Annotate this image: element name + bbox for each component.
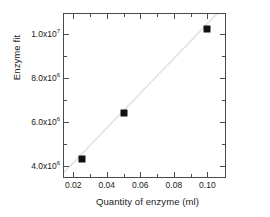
y-tick-minor [64, 100, 67, 101]
y-tick-right-major [220, 166, 225, 167]
y-tick-major [64, 166, 69, 167]
x-tick-label: 0.04 [98, 180, 115, 190]
x-tick-label: 0.10 [199, 180, 216, 190]
y-tick-label: 6.0x106 [31, 117, 60, 127]
x-tick-top-major [207, 14, 208, 19]
x-tick-minor [157, 174, 158, 177]
y-tick-right-minor [222, 144, 225, 145]
x-axis-label: Quantity of enzyme (ml) [60, 196, 235, 207]
data-point-marker [78, 156, 85, 163]
y-tick-major [64, 78, 69, 79]
x-tick-top-minor [124, 14, 125, 17]
data-point-marker [204, 26, 211, 33]
y-tick-minor [64, 144, 67, 145]
y-tick-right-major [220, 122, 225, 123]
x-tick-top-major [107, 14, 108, 19]
plot-inner [64, 14, 225, 177]
x-tick-minor [191, 174, 192, 177]
x-tick-major [174, 172, 175, 177]
x-tick-label: 0.02 [65, 180, 82, 190]
plot-area: 4.0x1066.0x1068.0x1061.0x1070.020.040.06… [63, 13, 226, 178]
y-tick-label: 4.0x106 [31, 161, 60, 171]
y-axis-label: Enzyme fit [11, 0, 22, 118]
chart-figure: Enzyme fit Quantity of enzyme (ml) 4.0x1… [0, 0, 270, 217]
x-tick-minor [90, 174, 91, 177]
y-tick-minor [64, 56, 67, 57]
y-tick-major [64, 34, 69, 35]
y-tick-right-major [220, 78, 225, 79]
y-tick-major [64, 122, 69, 123]
x-tick-minor [124, 174, 125, 177]
y-tick-right-minor [222, 100, 225, 101]
y-tick-right-minor [222, 56, 225, 57]
x-tick-major [207, 172, 208, 177]
fit-line [64, 14, 225, 177]
x-tick-top-minor [191, 14, 192, 17]
x-tick-top-major [174, 14, 175, 19]
x-tick-major [107, 172, 108, 177]
x-tick-label: 0.08 [166, 180, 183, 190]
x-tick-top-minor [90, 14, 91, 17]
x-tick-major [73, 172, 74, 177]
y-tick-right-major [220, 34, 225, 35]
x-tick-top-major [140, 14, 141, 19]
x-tick-label: 0.06 [132, 180, 149, 190]
x-tick-top-major [73, 14, 74, 19]
x-tick-major [140, 172, 141, 177]
y-tick-label: 8.0x106 [31, 73, 60, 83]
y-tick-label: 1.0x107 [31, 29, 60, 39]
x-tick-top-minor [157, 14, 158, 17]
data-point-marker [120, 110, 127, 117]
